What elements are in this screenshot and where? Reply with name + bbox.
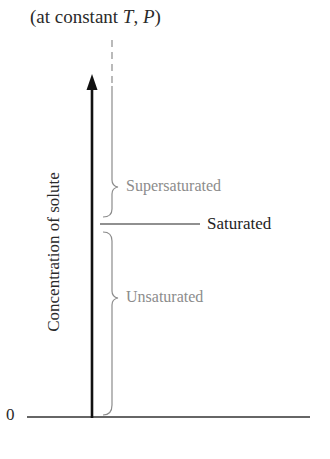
region-label-saturated: Saturated	[207, 214, 271, 234]
origin-label: 0	[6, 405, 15, 425]
region-label-unsaturated: Unsaturated	[126, 288, 203, 306]
supersaturated-brace-icon	[103, 86, 118, 217]
region-label-supersaturated: Supersaturated	[126, 177, 221, 195]
unsaturated-brace-icon	[103, 232, 118, 415]
y-axis-label: Concentration of solute	[44, 172, 64, 332]
arrow-head-icon	[87, 74, 98, 90]
